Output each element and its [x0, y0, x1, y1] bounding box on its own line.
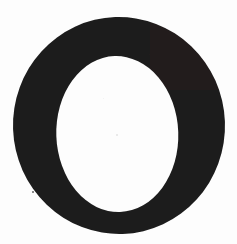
image-canvas: O — [0, 0, 237, 244]
letter-o-glyph — [0, 0, 237, 244]
